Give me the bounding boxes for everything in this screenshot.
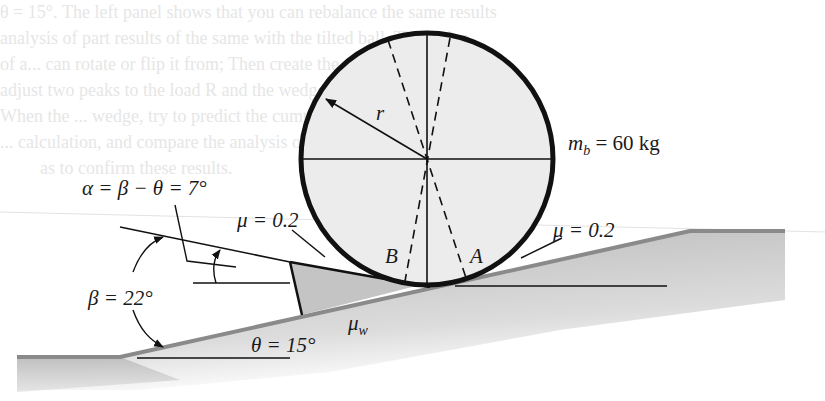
mass-variable: m (568, 131, 583, 155)
beta-arc-lower (133, 310, 163, 347)
ball (301, 33, 553, 285)
incline-friction-label: μ = 0.2 (553, 220, 614, 241)
wedge-ground-friction-label: μw (348, 313, 368, 334)
alpha-leader (175, 205, 236, 267)
contact-point-A: A (470, 246, 483, 267)
beta-arc-upper (133, 237, 163, 272)
alpha-arc (214, 250, 220, 283)
mass-value: = 60 kg (595, 131, 659, 155)
radius-label: r (376, 103, 384, 124)
wedge-friction-leader (292, 230, 325, 257)
mass-subscript: b (583, 143, 590, 158)
beta-label: β = 22° (88, 288, 153, 309)
theta-label: θ = 15° (251, 335, 315, 356)
ball-wedge-incline-diagram (0, 0, 825, 401)
mu-w-variable: μ (348, 311, 359, 335)
wedge-friction-label: μ = 0.2 (237, 210, 298, 231)
mu-w-subscript: w (359, 323, 368, 338)
ball-mass-label: mb = 60 kg (568, 133, 660, 154)
contact-point-B: B (385, 246, 398, 267)
wedge-top-extension (120, 227, 290, 262)
alpha-label: α = β − θ = 7° (82, 178, 207, 199)
